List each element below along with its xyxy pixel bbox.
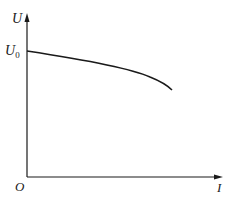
- u-i-curve: [27, 51, 172, 90]
- u-i-chart: [0, 0, 232, 206]
- y-axis-label: U: [12, 12, 22, 26]
- u0-label-subscript: 0: [15, 50, 20, 60]
- y-axis-arrow-icon: [25, 13, 30, 22]
- origin-label: O: [15, 180, 24, 193]
- u0-label: U0: [5, 44, 20, 60]
- x-axis-arrow-icon: [214, 175, 223, 180]
- u0-label-base: U: [5, 43, 15, 58]
- x-axis-label: I: [217, 181, 221, 194]
